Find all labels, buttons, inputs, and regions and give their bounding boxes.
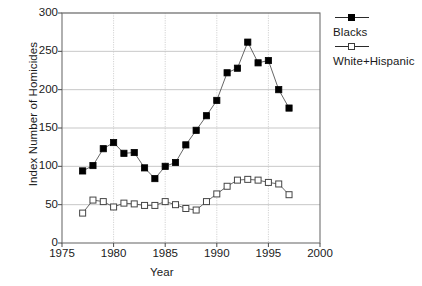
x-tick-label: 1980	[92, 247, 136, 259]
chart-legend: Blacks White+Hispanic	[333, 12, 421, 70]
legend-label: White+Hispanic	[333, 53, 421, 69]
x-tick-label: 2000	[298, 247, 342, 259]
x-tick-label: 1985	[143, 247, 187, 259]
legend-item-blacks: Blacks	[333, 12, 421, 40]
x-tick-label: 1995	[246, 247, 290, 259]
x-tick-label: 1990	[195, 247, 239, 259]
x-tick-label: 1975	[40, 247, 84, 259]
y-tick-label: 250	[28, 45, 58, 57]
legend-label: Blacks	[333, 24, 421, 40]
y-tick-label: 100	[28, 160, 58, 172]
x-axis-title: Year	[150, 266, 174, 278]
legend-item-white-hispanic: White+Hispanic	[333, 41, 421, 69]
y-tick-label: 150	[28, 122, 58, 134]
y-tick-label: 50	[28, 199, 58, 211]
y-tick-label: 300	[28, 7, 58, 19]
y-tick-label: 200	[28, 84, 58, 96]
filled-square-icon	[335, 12, 369, 24]
open-square-icon	[335, 41, 369, 53]
chart-figure: Index Number of Homicides Year 050100150…	[0, 0, 422, 286]
figure-caption	[4, 278, 418, 286]
